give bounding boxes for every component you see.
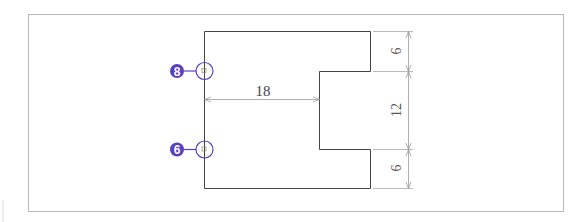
vertical-dimension bbox=[406, 32, 411, 189]
drawing-canvas: 6 12 6 18 8 6 bbox=[0, 0, 588, 222]
dim-bottom-thickness: 6 bbox=[389, 165, 404, 172]
balloon-8[interactable]: 8 bbox=[170, 63, 213, 80]
part-outline bbox=[205, 32, 371, 189]
dim-inner-depth: 18 bbox=[256, 83, 271, 99]
balloon-label-6: 6 bbox=[174, 143, 181, 157]
dim-top-thickness: 6 bbox=[389, 48, 404, 55]
balloon-label-8: 8 bbox=[174, 65, 181, 79]
balloon-6[interactable]: 6 bbox=[170, 141, 213, 158]
dim-gap: 12 bbox=[389, 103, 404, 117]
drawing-frame bbox=[29, 15, 564, 212]
